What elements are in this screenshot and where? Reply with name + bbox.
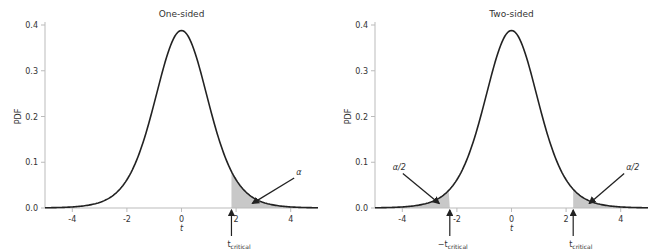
y-tick-label: 0.1 bbox=[25, 158, 38, 167]
y-tick-label: 0.0 bbox=[355, 204, 368, 213]
alpha-label: α/2 bbox=[626, 163, 639, 172]
t-distribution-figure: 0.00.10.20.30.4-4-2024One-sidedPDFtαtcri… bbox=[0, 0, 662, 250]
y-axis-label: PDF bbox=[344, 108, 353, 124]
y-tick-label: 0.3 bbox=[25, 67, 38, 76]
x-tick-label: -2 bbox=[123, 215, 131, 224]
one-sided-panel: 0.00.10.20.30.4-4-2024One-sidedPDFtαtcri… bbox=[14, 9, 318, 250]
alpha-arrow bbox=[589, 173, 624, 203]
x-tick-label: 4 bbox=[288, 215, 293, 224]
x-tick-label: 2 bbox=[234, 215, 239, 224]
pdf-curve bbox=[375, 30, 648, 207]
panel-title: One-sided bbox=[159, 9, 205, 19]
panel-title: Two-sided bbox=[488, 9, 533, 19]
y-tick-label: 0.0 bbox=[25, 204, 38, 213]
x-tick-label: -4 bbox=[68, 215, 76, 224]
y-tick-label: 0.3 bbox=[355, 67, 368, 76]
x-tick-label: 2 bbox=[564, 215, 569, 224]
x-tick-label: 4 bbox=[618, 215, 623, 224]
alpha-label: α bbox=[296, 168, 302, 177]
x-tick-label: -4 bbox=[398, 215, 406, 224]
x-tick-label: -2 bbox=[453, 215, 461, 224]
alpha-label: α/2 bbox=[393, 163, 406, 172]
y-axis-label: PDF bbox=[14, 108, 23, 124]
critical-value-label: −tcritical bbox=[438, 240, 468, 250]
y-tick-label: 0.2 bbox=[25, 113, 38, 122]
two-sided-panel: 0.00.10.20.30.4-4-2024Two-sidedPDFtα/2α/… bbox=[344, 9, 648, 250]
y-tick-label: 0.2 bbox=[355, 113, 368, 122]
y-tick-label: 0.4 bbox=[25, 21, 38, 30]
y-tick-label: 0.4 bbox=[355, 21, 368, 30]
x-axis-label: t bbox=[510, 224, 514, 233]
x-tick-label: 0 bbox=[179, 215, 184, 224]
x-axis-label: t bbox=[180, 224, 184, 233]
y-tick-label: 0.1 bbox=[355, 158, 368, 167]
critical-value-label: tcritical bbox=[227, 240, 251, 250]
critical-value-label: tcritical bbox=[569, 240, 593, 250]
alpha-arrow bbox=[403, 173, 439, 203]
pdf-curve bbox=[45, 30, 318, 207]
alpha-arrow bbox=[252, 178, 294, 203]
x-tick-label: 0 bbox=[509, 215, 514, 224]
